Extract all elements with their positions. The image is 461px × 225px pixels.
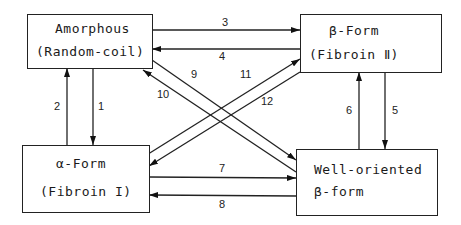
edge-label-5: 5 [392,104,398,116]
edge-label-12: 12 [261,95,273,107]
node-amorphous-subtitle: (Random-coil) [36,44,144,59]
node-amorphous: Amorphous (Random-coil) [27,14,153,69]
node-amorphous-title: Amorphous [55,21,130,36]
node-alpha-form-subtitle: (Fibroin I) [40,184,132,199]
node-beta-form-title: β-Form [329,23,379,38]
edge-label-6: 6 [346,104,352,116]
node-well-oriented-subtitle: β-form [314,184,364,199]
edge-10-arrow [143,70,296,172]
node-beta-form: β-Form (Fibroin Ⅱ) [300,14,442,73]
node-alpha-form: α-Form (Fibroin I) [22,145,150,213]
edge-label-8: 8 [219,198,225,210]
edge-label-9: 9 [191,68,197,80]
node-alpha-form-title: α-Form [56,156,106,171]
node-well-oriented-title: Well-oriented [314,162,422,177]
edge-label-11: 11 [240,68,251,80]
node-well-oriented: Well-oriented β-form [296,149,438,216]
edge-8-arrow [149,195,296,196]
node-beta-form-subtitle: (Fibroin Ⅱ) [309,47,399,62]
edge-12-arrow [149,72,300,166]
edge-11-arrow [145,59,300,156]
edge-label-4: 4 [219,50,225,62]
edge-7-arrow [149,177,296,178]
edge-label-7: 7 [219,162,225,174]
edge-label-10: 10 [157,88,169,100]
edge-label-3: 3 [222,16,228,28]
edge-label-1: 1 [98,100,104,112]
edge-label-2: 2 [54,100,60,112]
